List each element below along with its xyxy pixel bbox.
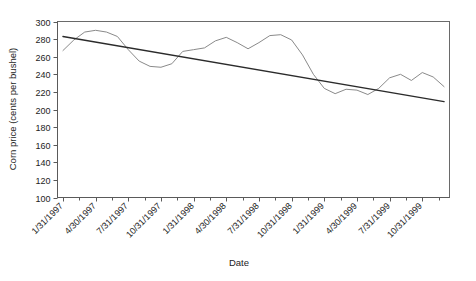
y-tick-label: 180 — [35, 123, 50, 133]
y-axis-ticks — [54, 23, 58, 199]
x-tick-label: 10/31/1998 — [255, 201, 294, 240]
x-axis-title: Date — [229, 257, 249, 268]
x-axis-tick-labels: 1/31/19974/30/19977/31/199710/31/19971/3… — [30, 201, 424, 240]
plot-area-frame — [58, 22, 450, 198]
y-tick-label: 300 — [35, 18, 50, 28]
y-tick-label: 100 — [35, 194, 50, 204]
corn-price-series-line — [63, 30, 444, 94]
x-tick-label: 1/31/1998 — [161, 201, 196, 236]
x-tick-label: 4/30/1999 — [324, 201, 359, 236]
y-tick-label: 260 — [35, 53, 50, 63]
x-tick-label: 4/30/1998 — [193, 201, 228, 236]
x-tick-label: 10/31/1999 — [385, 201, 424, 240]
y-tick-label: 280 — [35, 35, 50, 45]
x-axis-ticks — [64, 198, 440, 202]
chart-container: 100120140160180200220240260280300 1/31/1… — [0, 0, 476, 281]
x-tick-label: 10/31/1997 — [124, 201, 163, 240]
y-tick-label: 140 — [35, 158, 50, 168]
y-tick-label: 160 — [35, 141, 50, 151]
y-tick-label: 220 — [35, 88, 50, 98]
y-tick-label: 120 — [35, 176, 50, 186]
x-tick-label: 1/31/1999 — [291, 201, 326, 236]
corn-price-line-chart: 100120140160180200220240260280300 1/31/1… — [0, 0, 476, 281]
y-tick-label: 240 — [35, 70, 50, 80]
y-axis-tick-labels: 100120140160180200220240260280300 — [35, 18, 50, 204]
y-axis-title: Corn price (cents per bushel) — [7, 48, 18, 171]
y-tick-label: 200 — [35, 106, 50, 116]
x-tick-label: 4/30/1997 — [63, 201, 98, 236]
x-tick-label: 1/31/1997 — [30, 201, 65, 236]
